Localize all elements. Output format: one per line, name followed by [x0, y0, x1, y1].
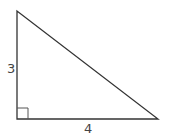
- triangle-diagram: 3 4: [0, 0, 178, 139]
- horizontal-leg-label: 4: [84, 121, 92, 136]
- right-triangle: [17, 11, 158, 119]
- right-angle-marker: [17, 108, 28, 119]
- vertical-leg-label: 3: [7, 61, 15, 76]
